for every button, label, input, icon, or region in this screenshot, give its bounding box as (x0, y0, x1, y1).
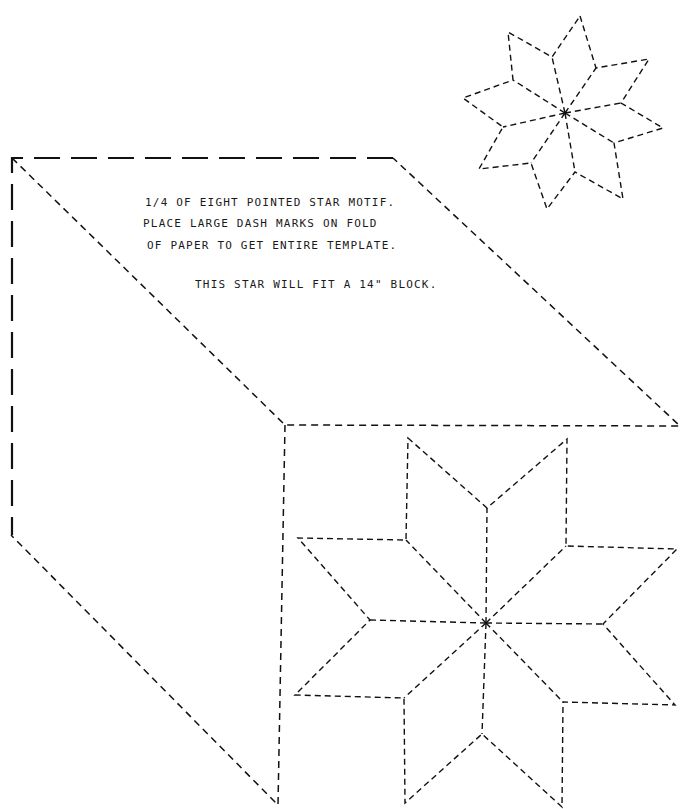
instruction-line-2: PLACE LARGE DASH MARKS ON FOLD (143, 217, 378, 230)
fold-edges (12, 158, 393, 535)
large-star (295, 438, 677, 807)
template-drawing (0, 0, 690, 809)
instruction-line-3: OF PAPER TO GET ENTIRE TEMPLATE. (147, 239, 397, 252)
template-outline (11, 158, 680, 805)
small-star (463, 16, 663, 209)
instruction-line-1: 1/4 OF EIGHT POINTED STAR MOTIF. (145, 196, 395, 209)
large-star-spokes (370, 508, 603, 734)
block-size-note: THIS STAR WILL FIT A 14" BLOCK. (195, 278, 438, 291)
small-star-spokes (503, 57, 621, 172)
side-panel-outline (11, 425, 285, 805)
fold-line (12, 158, 393, 535)
